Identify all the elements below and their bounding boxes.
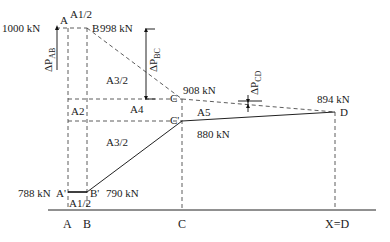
axis-label-b: B [83, 217, 91, 231]
line-b-c-top [87, 28, 182, 99]
label-a: A [60, 14, 68, 26]
value-a-prime: 788 kN [18, 187, 51, 199]
area-a3-bottom: A3/2 [106, 136, 128, 148]
value-c: 908 kN [183, 84, 216, 96]
axis-label-a: A [63, 217, 72, 231]
value-b: 998 kN [100, 22, 133, 34]
area-a3-top: A3/2 [106, 74, 128, 86]
axis-label-d: X=D [325, 217, 349, 231]
value-b-prime: 790 kN [106, 187, 139, 199]
label-b: B [92, 22, 99, 34]
label-b-prime: B' [90, 187, 99, 199]
delta-ab-arrow-icon [55, 25, 59, 30]
value-a: 1000 kN [2, 22, 40, 34]
line-b-prime-c-prime [87, 121, 182, 192]
label-d: D [340, 106, 348, 118]
area-a4: A4 [130, 103, 144, 115]
value-c-prime: 880 kN [197, 128, 230, 140]
label-c: C [170, 92, 177, 104]
delta-ab-label: ΔPAB [42, 48, 57, 72]
axis-label-c: C [178, 217, 186, 231]
area-a1-bottom: A1/2 [69, 197, 91, 209]
delta-bc-label: ΔPBC [147, 48, 162, 72]
area-a2: A2 [71, 105, 84, 117]
value-d: 894 kN [317, 93, 350, 105]
label-c-prime: C' [170, 114, 179, 126]
delta-cd-label: ΔPCD [248, 70, 263, 95]
area-a1-top: A1/2 [70, 8, 92, 20]
area-a5: A5 [197, 106, 211, 118]
prestress-loss-diagram: 1000 kN A B 998 kN A1/2 908 kN C C' 880 … [0, 0, 390, 242]
label-a-prime: A' [56, 187, 66, 199]
